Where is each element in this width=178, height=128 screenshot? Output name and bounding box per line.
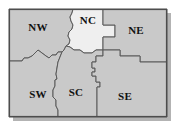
region-label-sw: SW — [29, 88, 47, 100]
region-label-nc: NC — [80, 14, 96, 26]
region-label-ne: NE — [128, 24, 144, 36]
region-label-se: SE — [118, 90, 132, 102]
region-label-nw: NW — [28, 21, 47, 33]
region-map-figure: NW NC NE SW SC SE — [0, 0, 178, 128]
region-map-svg: NW NC NE SW SC SE — [0, 0, 178, 128]
region-label-sc: SC — [69, 86, 83, 98]
